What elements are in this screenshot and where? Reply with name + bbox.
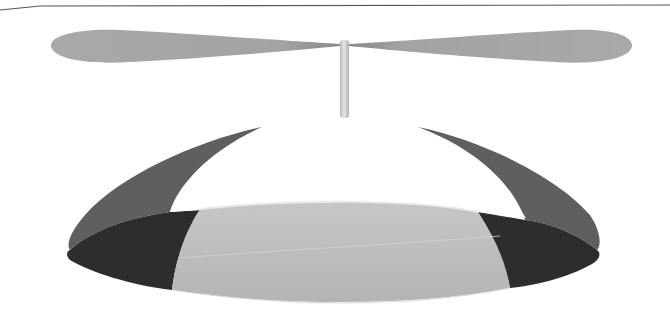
top-border-line (0, 5, 670, 10)
propeller-beanie-illustration: Grayscale illustration of a propeller be… (0, 0, 670, 320)
cap-panel-front (172, 202, 510, 302)
propeller-blade-left (51, 30, 340, 63)
propeller-blade-right (349, 30, 632, 63)
beanie-cap (67, 122, 600, 303)
propeller (51, 30, 632, 118)
propeller-stem (340, 40, 349, 118)
